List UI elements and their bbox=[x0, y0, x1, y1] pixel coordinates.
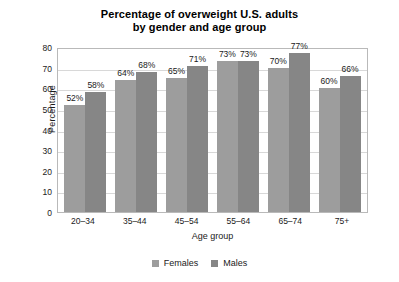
bar[interactable] bbox=[115, 80, 136, 212]
bar-group: 60%66% bbox=[314, 49, 365, 212]
x-axis-tick-label: 55–64 bbox=[212, 216, 264, 226]
bar[interactable] bbox=[166, 78, 187, 212]
bar-wrapper: 65% bbox=[166, 49, 187, 212]
bar[interactable] bbox=[85, 92, 106, 212]
y-axis-tick-label: 10 bbox=[30, 188, 52, 196]
bar-value-label: 66% bbox=[333, 65, 367, 74]
bar-wrapper: 77% bbox=[289, 49, 310, 212]
bar[interactable] bbox=[136, 72, 157, 212]
x-axis-tick-label: 35–44 bbox=[109, 216, 161, 226]
y-axis-tick-label: 50 bbox=[30, 106, 52, 114]
chart-title: Percentage of overweight U.S. adults by … bbox=[0, 8, 399, 34]
bar-wrapper: 52% bbox=[64, 49, 85, 212]
bar-wrapper: 58% bbox=[85, 49, 106, 212]
bar-wrapper: 66% bbox=[340, 49, 361, 212]
bar-group: 65%71% bbox=[162, 49, 213, 212]
y-axis-tick-label: 30 bbox=[30, 147, 52, 155]
legend-swatch bbox=[152, 260, 159, 267]
bar-wrapper: 64% bbox=[115, 49, 136, 212]
y-axis-tick-label: 80 bbox=[30, 44, 52, 52]
bar[interactable] bbox=[268, 68, 289, 212]
bar-value-label: 77% bbox=[282, 42, 316, 51]
bar-group: 73%73% bbox=[212, 49, 263, 212]
plot-area: 52%58%64%68%65%71%73%73%70%77%60%66% bbox=[57, 48, 368, 213]
bar-wrapper: 73% bbox=[238, 49, 259, 212]
bar[interactable] bbox=[217, 61, 238, 212]
chart-container: Percentage of overweight U.S. adults by … bbox=[0, 0, 399, 282]
legend-label: Males bbox=[223, 258, 247, 268]
bar[interactable] bbox=[340, 76, 361, 212]
legend-item[interactable]: Females bbox=[152, 258, 199, 268]
bar[interactable] bbox=[319, 88, 340, 212]
chart-legend: FemalesMales bbox=[0, 258, 399, 268]
bar-group: 52%58% bbox=[60, 49, 111, 212]
y-axis-tick-label: 40 bbox=[30, 127, 52, 135]
bar-value-label: 58% bbox=[79, 81, 113, 90]
legend-label: Females bbox=[164, 258, 199, 268]
y-axis-tick-label: 70 bbox=[30, 65, 52, 73]
x-axis-title: Age group bbox=[57, 231, 368, 241]
y-axis-tick-label: 20 bbox=[30, 168, 52, 176]
y-axis-tick-label: 60 bbox=[30, 85, 52, 93]
chart-title-line-2: by gender and age group bbox=[0, 21, 399, 34]
bar[interactable] bbox=[238, 61, 259, 212]
bar[interactable] bbox=[64, 105, 85, 212]
x-axis-tick-label: 65–74 bbox=[264, 216, 316, 226]
bar-wrapper: 68% bbox=[136, 49, 157, 212]
x-axis-tick-label: 75+ bbox=[316, 216, 368, 226]
x-axis-tick-label: 20–34 bbox=[57, 216, 109, 226]
x-axis-ticks: 20–3435–4445–5455–6465–7475+ bbox=[57, 216, 368, 226]
bar-group: 70%77% bbox=[263, 49, 314, 212]
bar[interactable] bbox=[289, 53, 310, 212]
bar-wrapper: 71% bbox=[187, 49, 208, 212]
bar-groups: 52%58%64%68%65%71%73%73%70%77%60%66% bbox=[58, 49, 367, 212]
x-axis-tick-label: 45–54 bbox=[161, 216, 213, 226]
chart-title-line-1: Percentage of overweight U.S. adults bbox=[0, 8, 399, 21]
bar[interactable] bbox=[187, 66, 208, 212]
bar-group: 64%68% bbox=[111, 49, 162, 212]
legend-item[interactable]: Males bbox=[211, 258, 247, 268]
bar-wrapper: 70% bbox=[268, 49, 289, 212]
y-axis-tick-label: 0 bbox=[30, 209, 52, 217]
bar-wrapper: 73% bbox=[217, 49, 238, 212]
legend-swatch bbox=[211, 260, 218, 267]
